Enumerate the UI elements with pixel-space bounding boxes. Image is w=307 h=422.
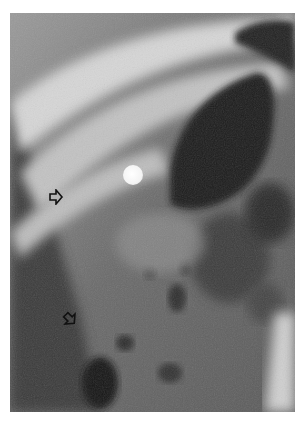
radiograph-image	[10, 13, 295, 412]
radiopaque-marker	[123, 165, 143, 185]
arrow-down-right-icon	[62, 311, 78, 327]
radiograph-shading	[10, 13, 295, 412]
arrow-right-icon	[48, 189, 64, 205]
